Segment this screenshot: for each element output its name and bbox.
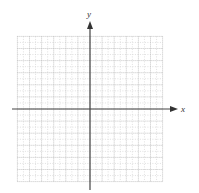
y-axis-arrow-icon [87,21,93,29]
coordinate-plane: x y [0,0,199,193]
y-axis-label: y [86,9,91,19]
x-axis-arrow-icon [170,106,178,112]
x-axis-label: x [180,104,185,114]
